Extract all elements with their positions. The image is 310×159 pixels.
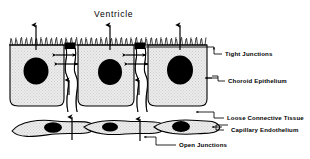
nucleus [102,122,118,131]
label-open-junctions: Open Junctions [179,141,228,148]
capillary-endothelium-layer [12,120,220,136]
nucleus [44,122,62,132]
microvilli-border [9,37,207,45]
label-tight-junctions: Tight Junctions [225,50,273,57]
nucleus [98,59,122,85]
choroid-epithelium-layer [10,45,207,112]
label-loose-connective-tissue: Loose Connective Tissue [227,114,304,121]
endothelial-cell [84,120,165,134]
diagram-canvas: Ventricle [0,0,310,159]
choroid-plexus-diagram: Ventricle [0,0,310,159]
page-title: Ventricle [94,9,133,19]
label-capillary-endothelium: Capillary Endothelium [231,126,299,133]
nucleus [24,58,49,85]
nucleus [167,56,193,85]
nucleus [172,121,190,132]
label-choroid-epithelium: Choroid Epithelium [228,77,287,84]
